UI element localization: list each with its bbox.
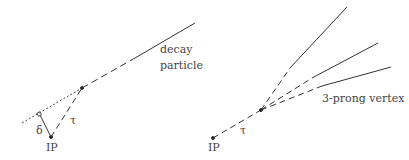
decay-track-dashed <box>82 58 135 88</box>
tau-flight-path-right <box>213 110 261 138</box>
ip-dot-right <box>212 137 215 140</box>
ip-dot <box>50 136 53 139</box>
label-tau-right: τ <box>240 125 246 136</box>
label-ip-right: IP <box>208 142 220 153</box>
prong-2-dashed <box>261 78 312 110</box>
label-ip-left: IP <box>46 142 58 153</box>
left-panel <box>22 23 195 139</box>
prong-2-solid <box>312 43 378 78</box>
prong-1-dashed <box>261 68 290 110</box>
label-particle: particle <box>160 60 203 71</box>
diagram-svg <box>0 0 409 160</box>
prong-3-solid <box>322 67 391 86</box>
prong-1-solid <box>290 7 347 68</box>
label-tau-left: τ <box>70 115 76 126</box>
right-panel <box>212 7 392 140</box>
label-delta: δ <box>36 125 43 136</box>
tau-flight-path <box>51 88 82 137</box>
decay-vertex-dot <box>81 87 84 90</box>
prong-3-dashed <box>261 86 322 110</box>
label-3-prong-vertex: 3-prong vertex <box>322 93 404 104</box>
vertex-dot <box>260 109 263 112</box>
diagram-canvas: decay particle δ τ IP 3-prong vertex τ I… <box>0 0 409 160</box>
label-decay: decay <box>160 44 192 55</box>
